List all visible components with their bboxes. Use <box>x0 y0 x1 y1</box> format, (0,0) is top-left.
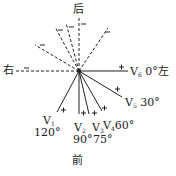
v1-angle: 120° <box>34 127 61 138</box>
v5-neg-axis <box>35 45 79 71</box>
left-label: 左 <box>158 65 169 78</box>
v1-axis <box>57 71 79 112</box>
v1-neg-axis <box>79 28 108 71</box>
v3-angle: 75° <box>93 134 113 145</box>
lead-axis-diagram <box>0 0 176 176</box>
v5-axis <box>79 71 122 97</box>
v4-label: V460° <box>103 120 134 134</box>
back-label: 后 <box>73 4 84 15</box>
v4-axis <box>79 71 102 111</box>
v4-neg-axis <box>55 27 79 71</box>
v3-neg-axis <box>66 23 79 71</box>
v2-angle: 90° <box>73 134 93 145</box>
front-label: 前 <box>72 155 83 166</box>
v5-label: V5 30° <box>125 97 160 111</box>
right-label: 右 <box>3 65 14 76</box>
v3-axis <box>79 71 89 114</box>
v6-label: V6 0°左 <box>130 66 169 80</box>
